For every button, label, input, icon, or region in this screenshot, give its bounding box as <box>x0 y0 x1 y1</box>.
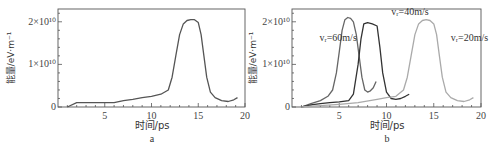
x-tick-label: 5 <box>337 110 342 121</box>
y-tick-label: 1×10¹⁰ <box>28 58 56 69</box>
series-annotation: vᵣ=20m/s <box>451 32 488 43</box>
y-tick-label: 0 <box>285 101 290 112</box>
series-annotation: vᵣ=60m/s <box>319 32 356 43</box>
x-tick-label: 5 <box>102 110 107 121</box>
y-tick-label: 2×10¹⁰ <box>262 16 290 27</box>
chart-panel-a: 510152001×10¹⁰2×10¹⁰ 能量/eV·m⁻¹ 时间/ps a <box>5 9 250 144</box>
x-tick-label: 15 <box>193 110 203 121</box>
panel-label: a <box>150 133 155 144</box>
data-series <box>301 18 376 108</box>
x-axis-label: 时间/ps <box>135 119 170 131</box>
annotations: vᵣ=60m/svᵣ=40m/svᵣ=20m/s <box>319 6 488 43</box>
y-tick-label: 2×10¹⁰ <box>28 16 56 27</box>
x-tick-label: 20 <box>476 110 486 121</box>
x-tick-label: 20 <box>240 110 250 121</box>
y-axis-label: 能量/eV·m⁻¹ <box>247 31 258 84</box>
x-axis-label: 时间/ps <box>370 119 405 131</box>
x-tick-label: 15 <box>429 110 439 121</box>
plot-frame <box>58 9 245 107</box>
y-axis-label: 能量/eV·m⁻¹ <box>5 31 16 84</box>
curves <box>301 18 473 108</box>
y-tick-label: 0 <box>51 101 56 112</box>
curves <box>67 20 237 107</box>
y-tick-label: 1×10¹⁰ <box>262 58 290 69</box>
ticks <box>58 13 245 107</box>
chart-panel-b: 510152001×10¹⁰2×10¹⁰ vᵣ=60m/svᵣ=40m/svᵣ=… <box>247 6 488 144</box>
series-annotation: vᵣ=40m/s <box>391 6 428 17</box>
panel-label: b <box>385 133 390 144</box>
data-series <box>67 20 237 107</box>
figure: 510152001×10¹⁰2×10¹⁰ 能量/eV·m⁻¹ 时间/ps a 5… <box>0 0 497 149</box>
